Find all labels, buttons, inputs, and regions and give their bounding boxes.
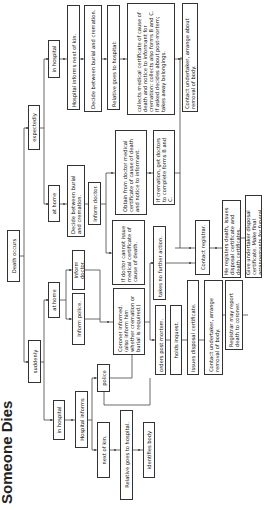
node-exp-hospital-relative: Relative goes to hospital: [107, 5, 120, 110]
node-disposal-certificate: Issues disposal certificate. [187, 280, 199, 375]
node-sud-in-hospital: in hospital [53, 400, 65, 440]
node-exp-hospital-informs: Hospital informs next of kin. [67, 5, 80, 110]
node-next-of-kin: next of kin. [97, 422, 110, 478]
node-sud-at-home: at home [48, 282, 60, 318]
node-post-mortem: orders post mortem. [155, 305, 166, 375]
node-exp-home-decide: Decide between burial and cremation. [67, 165, 85, 237]
node-police: police [97, 364, 110, 392]
node-exp-hospital-decide: Decide between burial and cremation. [84, 5, 102, 112]
node-registers-death: He registers death, issues disposal cert… [222, 200, 241, 278]
node-inquest: holds inquest. [170, 305, 182, 375]
node-coroner-informed: Coroner informed. (also inform him wheth… [113, 288, 145, 355]
node-exp-hospital-undertaker: Contact undertaker, arrange about remova… [182, 3, 198, 112]
node-sud-relative: Relative goes to hospital. [120, 410, 133, 500]
node-contact-registrar: Contact registrar. [195, 220, 210, 275]
node-sud-undertaker: Contact undertaker, arrange removal of b… [204, 280, 223, 375]
node-sud-inform-doctor: Inform doctor. [72, 250, 85, 290]
node-exp-home-obtain-certificate: Obtain from doctor medical certificate o… [115, 130, 147, 215]
node-exp-home-cremation: If cremation, get doctors to complete fo… [153, 130, 175, 205]
node-no-further-action: takes no further action. [153, 226, 166, 300]
node-exp-home-doctor-cannot: If doctor cannot issue medical certifica… [112, 220, 145, 285]
node-exp-at-home: at home [48, 185, 60, 222]
node-identifies-body: identifies body [143, 422, 155, 478]
node-exp-hospital-collects: collects medical certificate of cause of… [127, 3, 175, 115]
node-exp-in-hospital: in hospital [48, 40, 60, 78]
node-give-undertaker: Give undertaker disposal certificate. Ma… [245, 195, 262, 278]
node-death-occurs: Death occurs [7, 230, 20, 282]
node-sud-hospital-informs: Hospital informs [75, 391, 88, 448]
node-suddenly: suddenly [28, 340, 41, 383]
node-expectedly: expectedly [28, 105, 40, 150]
node-sud-inform-police: Inform police. [72, 293, 85, 345]
node-registrar-report: Registrar may report death to coroner. [225, 280, 243, 350]
flowchart-frame: Someone Dies [0, 0, 265, 510]
node-exp-home-inform-doctor: Inform doctor. [88, 182, 101, 225]
